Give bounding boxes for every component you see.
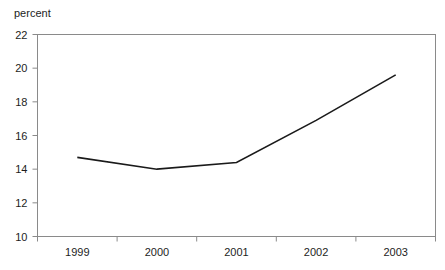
x-axis-tick-label: 1999 [65, 246, 89, 258]
y-axis-tick-label: 22 [15, 29, 27, 41]
x-axis-tick-label: 2001 [224, 246, 248, 258]
y-axis-tick-label: 14 [15, 163, 27, 175]
plot-frame [38, 35, 436, 237]
y-axis-tick-label: 16 [15, 130, 27, 142]
y-axis-tick-marks [33, 35, 38, 237]
x-axis-tick-label: 2002 [304, 246, 328, 258]
plot-area: 10121416182022 19992000200120022003 [0, 0, 445, 270]
data-series-line [77, 75, 395, 169]
y-axis-tick-labels: 10121416182022 [15, 29, 27, 243]
x-axis-tick-label: 2000 [145, 246, 169, 258]
y-axis-tick-label: 18 [15, 96, 27, 108]
y-axis-tick-label: 12 [15, 197, 27, 209]
x-axis-tick-label: 2003 [383, 246, 407, 258]
line-chart: percent 10121416182022 19992000200120022… [0, 0, 445, 270]
x-axis-tick-marks [38, 237, 436, 242]
x-axis-tick-labels: 19992000200120022003 [65, 246, 408, 258]
y-axis-tick-label: 10 [15, 231, 27, 243]
y-axis-tick-label: 20 [15, 62, 27, 74]
